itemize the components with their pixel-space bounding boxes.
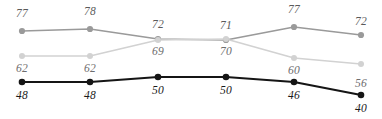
data-point-marker[interactable] bbox=[87, 26, 93, 32]
series-line-series-light-gray bbox=[22, 39, 361, 64]
data-point-label: 71 bbox=[220, 20, 232, 32]
data-point-marker[interactable] bbox=[291, 24, 297, 30]
data-point-label: 62 bbox=[16, 63, 28, 75]
data-point-label: 72 bbox=[355, 16, 367, 28]
data-point-label: 60 bbox=[288, 65, 300, 77]
data-point-label: 56 bbox=[355, 78, 367, 90]
data-point-marker[interactable] bbox=[87, 53, 93, 59]
data-point-marker[interactable] bbox=[291, 55, 297, 61]
data-point-label: 78 bbox=[84, 6, 96, 18]
data-point-label: 62 bbox=[84, 63, 96, 75]
data-point-label: 77 bbox=[288, 4, 300, 16]
series-line-series-black bbox=[22, 77, 361, 95]
data-point-marker[interactable] bbox=[358, 32, 364, 38]
data-point-marker[interactable] bbox=[155, 74, 162, 81]
data-point-marker[interactable] bbox=[291, 79, 298, 86]
data-point-label: 48 bbox=[16, 90, 28, 102]
data-point-marker[interactable] bbox=[87, 79, 94, 86]
data-point-marker[interactable] bbox=[358, 61, 364, 67]
series-line-series-medium-gray bbox=[22, 27, 361, 40]
data-point-label: 72 bbox=[152, 19, 164, 31]
data-point-label: 46 bbox=[288, 90, 300, 102]
data-point-marker[interactable] bbox=[19, 53, 25, 59]
chart-plot-area bbox=[0, 0, 382, 119]
data-point-marker[interactable] bbox=[223, 74, 230, 81]
data-point-label: 40 bbox=[355, 103, 367, 115]
data-point-marker[interactable] bbox=[223, 36, 229, 42]
data-point-label: 77 bbox=[16, 8, 28, 20]
data-point-marker[interactable] bbox=[19, 28, 25, 34]
series-markers-group bbox=[19, 24, 365, 98]
data-point-label: 69 bbox=[152, 46, 164, 58]
data-point-label: 50 bbox=[152, 85, 164, 97]
line-chart: 777872717772626269706056484850504640 bbox=[0, 0, 382, 119]
data-point-marker[interactable] bbox=[19, 79, 26, 86]
data-point-label: 70 bbox=[220, 46, 232, 58]
series-lines-group bbox=[22, 27, 361, 95]
data-point-label: 50 bbox=[220, 85, 232, 97]
data-point-marker[interactable] bbox=[155, 37, 161, 43]
data-point-marker[interactable] bbox=[358, 92, 365, 99]
data-point-label: 48 bbox=[84, 90, 96, 102]
